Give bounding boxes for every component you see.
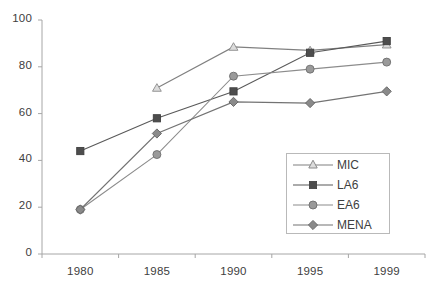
x-tick-label: 1985 (127, 265, 187, 277)
data-point (229, 97, 238, 106)
y-axis-ticks (38, 20, 42, 254)
legend-label-la6: LA6 (337, 178, 358, 192)
data-point (77, 147, 84, 154)
legend-sample-ea6 (291, 196, 335, 214)
y-tick-label: 80 (4, 59, 32, 71)
data-point (307, 49, 314, 56)
legend-item-ea6: EA6 (287, 195, 391, 215)
y-tick-label: 40 (4, 152, 32, 164)
chart-legend: MIC LA6 EA6 MENA (286, 153, 390, 234)
data-point (306, 98, 315, 107)
data-point (230, 88, 237, 95)
legend-sample-mena (291, 216, 335, 234)
line-chart: 020406080100 19801985199019951999 MIC LA… (0, 0, 434, 290)
series-line (157, 45, 387, 88)
y-tick-label: 100 (4, 12, 32, 24)
x-tick-label: 1995 (280, 265, 340, 277)
legend-label-mic: MIC (337, 158, 359, 172)
data-point (306, 65, 314, 73)
data-point (383, 58, 391, 66)
x-axis-ticks (42, 254, 425, 258)
legend-label-mena: MENA (337, 218, 372, 232)
plot-area (0, 0, 434, 290)
data-point (153, 84, 162, 92)
legend-sample-la6 (291, 176, 335, 194)
data-point (383, 37, 390, 44)
legend-item-mena: MENA (287, 215, 391, 235)
series-line (80, 41, 386, 151)
legend-item-mic: MIC (287, 155, 391, 175)
legend-item-la6: LA6 (287, 175, 391, 195)
series-la6 (77, 37, 391, 154)
x-tick-label: 1990 (204, 265, 264, 277)
y-tick-label: 60 (4, 106, 32, 118)
x-tick-label: 1980 (50, 265, 110, 277)
data-point (382, 87, 391, 96)
data-point (153, 151, 161, 159)
x-tick-label: 1999 (357, 265, 417, 277)
series-mic (153, 40, 392, 91)
y-tick-label: 0 (4, 246, 32, 258)
y-tick-label: 20 (4, 199, 32, 211)
data-point (230, 72, 238, 80)
legend-sample-mic (291, 156, 335, 174)
data-point (153, 115, 160, 122)
legend-label-ea6: EA6 (337, 198, 360, 212)
